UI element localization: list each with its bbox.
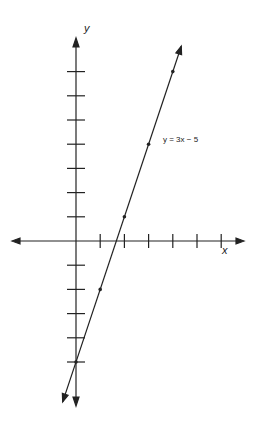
x-axis-label: x (222, 244, 228, 256)
line-top-arrow-icon (176, 46, 182, 55)
data-point (171, 70, 175, 74)
y-axis-label: y (84, 22, 90, 34)
line-bottom-arrow-icon (62, 393, 68, 402)
data-point (98, 288, 102, 292)
coordinate-plane (0, 0, 254, 436)
data-point (74, 360, 78, 364)
y-axis-down-arrow-icon (73, 397, 79, 406)
data-point (147, 142, 151, 146)
data-point (123, 215, 127, 219)
x-axis-right-arrow-icon (236, 238, 244, 244)
line-equation-label: y = 3x − 5 (163, 135, 198, 144)
function-line (63, 46, 182, 402)
x-axis-left-arrow-icon (12, 238, 20, 244)
y-axis-up-arrow-icon (73, 38, 79, 47)
